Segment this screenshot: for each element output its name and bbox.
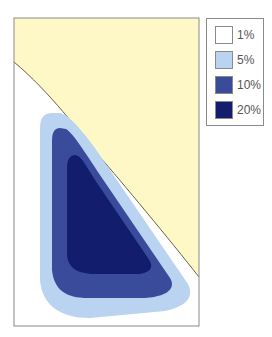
legend-item-5pct: 5% — [215, 50, 254, 70]
legend-label: 20% — [237, 103, 261, 117]
legend-item-1pct: 1% — [215, 25, 254, 45]
legend-item-10pct: 10% — [215, 75, 261, 95]
legend-item-20pct: 20% — [215, 100, 261, 120]
legend: 1% 5% 10% 20% — [206, 18, 264, 126]
legend-swatch — [215, 101, 233, 119]
legend-swatch — [215, 51, 233, 69]
legend-label: 1% — [237, 28, 254, 42]
legend-label: 10% — [237, 78, 261, 92]
legend-label: 5% — [237, 53, 254, 67]
legend-swatch — [215, 26, 233, 44]
legend-swatch — [215, 76, 233, 94]
